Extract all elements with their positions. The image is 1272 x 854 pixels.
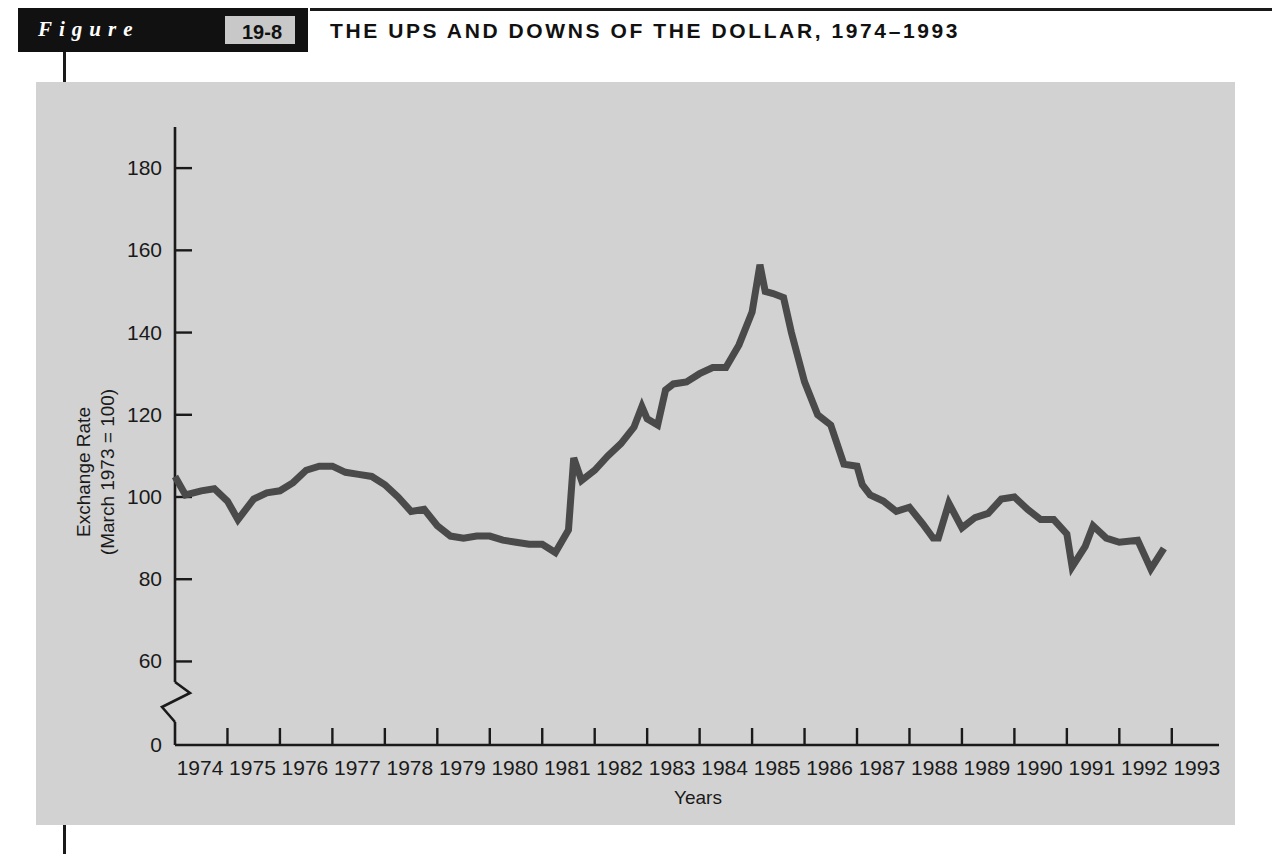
y-tick-label: 60 xyxy=(139,649,162,672)
x-tick-label: 1985 xyxy=(754,756,801,779)
y-tick-label: 180 xyxy=(127,156,162,179)
x-tick-label: 1981 xyxy=(544,756,591,779)
chart-axes xyxy=(162,127,1219,745)
exchange-rate-line xyxy=(175,265,1164,569)
y-tick-label: 80 xyxy=(139,567,162,590)
x-tick-label: 1990 xyxy=(1016,756,1063,779)
x-tick-label: 1983 xyxy=(649,756,696,779)
x-tick-label: 1993 xyxy=(1173,756,1220,779)
y-axis-title-line2: (March 1973 = 100) xyxy=(97,389,118,555)
y-tick-label: 160 xyxy=(127,238,162,261)
x-tick-label: 1991 xyxy=(1068,756,1115,779)
figure-header: Figure 19-8 THE UPS AND DOWNS OF THE DOL… xyxy=(18,8,1272,52)
x-tick-label: 1974 xyxy=(177,756,224,779)
x-tick-label: 1980 xyxy=(491,756,538,779)
x-tick-label: 1975 xyxy=(229,756,276,779)
x-tick-label: 1987 xyxy=(859,756,906,779)
x-axis-ticks: 1974197519761977197819791980198119821983… xyxy=(177,728,1221,779)
header-rule xyxy=(310,8,1272,11)
x-tick-label: 1979 xyxy=(439,756,486,779)
x-tick-label: 1992 xyxy=(1121,756,1168,779)
figure-number-box: 19-8 xyxy=(223,14,297,46)
axis-break-icon xyxy=(162,682,190,722)
x-tick-label: 1988 xyxy=(911,756,958,779)
x-tick-label: 1989 xyxy=(964,756,1011,779)
chart-panel: 06080100120140160180 1974197519761977197… xyxy=(36,82,1235,825)
figure-label-block: Figure 19-8 xyxy=(18,8,308,52)
y-tick-label: 140 xyxy=(127,321,162,344)
figure-word-label: Figure xyxy=(38,17,140,42)
x-tick-label: 1977 xyxy=(334,756,381,779)
y-tick-label: 0 xyxy=(150,733,162,756)
y-axis-title-line1: Exchange Rate xyxy=(73,407,94,537)
y-axis-ticks: 06080100120140160180 xyxy=(127,156,192,756)
line-chart: 06080100120140160180 1974197519761977197… xyxy=(36,82,1235,825)
figure-page: Figure 19-8 THE UPS AND DOWNS OF THE DOL… xyxy=(0,0,1272,854)
x-tick-label: 1978 xyxy=(386,756,433,779)
y-tick-label: 100 xyxy=(127,485,162,508)
x-tick-label: 1982 xyxy=(596,756,643,779)
x-tick-label: 1984 xyxy=(701,756,748,779)
x-axis-title: Years xyxy=(674,787,722,808)
x-tick-label: 1976 xyxy=(282,756,329,779)
figure-title: THE UPS AND DOWNS OF THE DOLLAR, 1974–19… xyxy=(330,19,960,43)
figure-number-label: 19-8 xyxy=(225,21,299,44)
x-tick-label: 1986 xyxy=(806,756,853,779)
y-tick-label: 120 xyxy=(127,403,162,426)
